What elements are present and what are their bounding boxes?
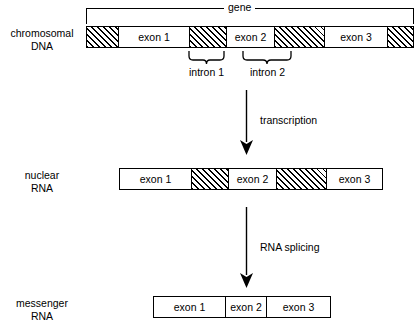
messenger-rna-segment-exon-2: exon 2 bbox=[225, 297, 266, 317]
nuclear-rna-segment-exon-2: exon 2 bbox=[228, 169, 276, 189]
chromosomal-dna-bar: exon 1 exon 2 exon 3 bbox=[86, 26, 414, 48]
dna-segment-exon-1: exon 1 bbox=[118, 27, 189, 47]
intron-2-label: intron 2 bbox=[229, 66, 306, 78]
transcription-arrow bbox=[238, 90, 255, 156]
messenger-rna-segment-exon-1: exon 1 bbox=[154, 297, 225, 317]
gene-bracket-label: gene bbox=[224, 1, 255, 13]
dna-segment-exon-2: exon 2 bbox=[226, 27, 274, 47]
down-arrow-icon bbox=[238, 90, 255, 156]
down-arrow-icon bbox=[238, 207, 255, 289]
nuclear-rna-bar: exon 1 exon 2 exon 3 bbox=[119, 168, 383, 190]
nuclear-rna-exon-3-label: exon 3 bbox=[339, 173, 371, 185]
gene-bracket-left-tick bbox=[86, 8, 87, 24]
dna-segment-intron-2 bbox=[274, 27, 324, 47]
row-label-nuclear-rna: nuclear RNA bbox=[0, 169, 84, 195]
dna-segment-intron-0 bbox=[87, 27, 118, 47]
messenger-rna-exon-3-label: exon 3 bbox=[283, 301, 315, 313]
nuclear-rna-segment-intron-2 bbox=[276, 169, 326, 189]
intron-1-brace bbox=[188, 50, 225, 63]
dna-segment-intron-1 bbox=[189, 27, 226, 47]
dna-exon-2-label: exon 2 bbox=[235, 31, 267, 43]
nuclear-rna-segment-exon-1: exon 1 bbox=[120, 169, 191, 189]
rna-splicing-arrow-label: RNA splicing bbox=[260, 241, 320, 253]
transcription-arrow-label: transcription bbox=[260, 114, 317, 126]
gene-bracket: gene bbox=[86, 8, 414, 24]
nuclear-rna-exon-2-label: exon 2 bbox=[237, 173, 269, 185]
dna-exon-1-label: exon 1 bbox=[138, 31, 170, 43]
row-label-messenger-rna: messenger RNA bbox=[0, 297, 84, 323]
messenger-rna-bar: exon 1 exon 2 exon 3 bbox=[153, 296, 331, 318]
nuclear-rna-segment-intron-1 bbox=[191, 169, 228, 189]
messenger-rna-exon-1-label: exon 1 bbox=[174, 301, 206, 313]
intron-2-brace bbox=[242, 50, 292, 63]
messenger-rna-exon-2-label: exon 2 bbox=[230, 301, 262, 313]
gene-bracket-right-tick bbox=[413, 8, 414, 24]
rna-splicing-arrow bbox=[238, 207, 255, 289]
dna-segment-intron-3 bbox=[387, 27, 413, 47]
nuclear-rna-segment-exon-3: exon 3 bbox=[326, 169, 382, 189]
gene-expression-diagram: gene chromosomal DNA exon 1 exon 2 exon … bbox=[0, 0, 419, 336]
intron-1-brace-icon bbox=[188, 51, 225, 64]
nuclear-rna-exon-1-label: exon 1 bbox=[140, 173, 172, 185]
dna-exon-3-label: exon 3 bbox=[340, 31, 372, 43]
row-label-chromosomal-dna: chromosomal DNA bbox=[0, 27, 84, 53]
dna-segment-exon-3: exon 3 bbox=[324, 27, 387, 47]
messenger-rna-segment-exon-3: exon 3 bbox=[266, 297, 330, 317]
intron-2-brace-icon bbox=[242, 51, 292, 64]
